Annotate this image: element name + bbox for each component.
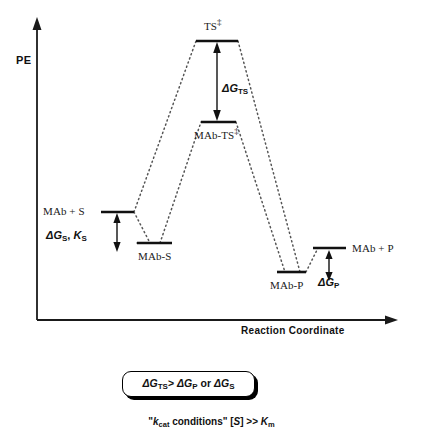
reaction-path-dotted [134, 41, 318, 272]
k-cat-subscript: cat [159, 420, 170, 429]
level-label-mab-ts: MAb-TS‡ [194, 126, 239, 141]
level-label-ts: TS‡ [204, 17, 222, 32]
delta-g-ts-subscript: TS [238, 87, 248, 96]
delta-g-p-subscript: P [334, 281, 339, 290]
km-subscript: m [268, 420, 275, 429]
caption-middle-text: ] >> [240, 416, 261, 427]
level-label-mab-p: MAb-P [270, 279, 304, 291]
k-s-subscript: S [81, 234, 86, 243]
energy-levels [101, 41, 346, 272]
y-axis-label: PE [16, 54, 31, 66]
delta-g-p-label: ΔGP [318, 276, 339, 290]
figure-caption: "kcat conditions" [S] >> Km [0, 416, 423, 429]
double-dagger-icon: ‡ [234, 126, 239, 136]
arrow-delta-g-s [113, 213, 120, 252]
y-axis [33, 17, 42, 320]
g-symbol: G [53, 229, 62, 241]
g-symbol: G [325, 276, 334, 288]
g-symbol: G [150, 377, 158, 389]
g-symbol: G [229, 82, 238, 94]
caption-conditions-text: conditions" [ [169, 416, 233, 427]
delta-symbol: Δ [214, 377, 221, 389]
km-symbol: K [261, 416, 268, 427]
inequality-callout-box: ΔGTS> ΔGP or ΔGS [122, 371, 255, 397]
inequality-expression: ΔGTS> ΔGP or ΔGS [142, 377, 234, 391]
x-axis [37, 316, 398, 325]
level-label-mab-s: MAb-S [138, 250, 172, 262]
x-axis-label: Reaction Coordinate [241, 325, 345, 336]
callout-sub-s: S [229, 382, 234, 391]
callout-conjunction: or [198, 377, 214, 389]
delta-g-s-label: ΔGS, KS [46, 229, 87, 243]
level-label-mab-plus-s: MAb + S [43, 205, 85, 217]
g-symbol: G [221, 377, 229, 389]
level-label-ts-text: TS [204, 20, 217, 32]
greater-than-operator: > [168, 377, 174, 389]
callout-sub-ts: TS [158, 382, 168, 391]
level-label-mab-ts-text: MAb-TS [194, 129, 234, 141]
delta-symbol: Δ [142, 377, 149, 389]
delta-g-ts-label: ΔGTS [222, 82, 248, 96]
arrow-delta-g-ts [213, 42, 221, 121]
level-label-mab-plus-p: MAb + P [352, 242, 394, 254]
double-dagger-icon: ‡ [217, 17, 222, 27]
